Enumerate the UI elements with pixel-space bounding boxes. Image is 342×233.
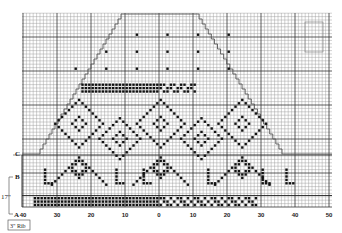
stitch-marks [34,34,295,207]
marker-b: B [15,174,20,181]
x-tick-label: 30 [258,212,265,218]
measure-17in: 17" [1,194,11,201]
x-tick-label: 30 [54,212,61,218]
x-tick-label: 20 [224,212,231,218]
x-tick-label: 40 [292,212,299,218]
x-tick-label: 40 [20,212,27,218]
measure-rib: 3" Rib [10,223,26,229]
knitting-chart [0,0,342,233]
x-tick-label: 10 [190,212,197,218]
x-tick-label: 50 [326,212,333,218]
x-tick-label: 0 [157,212,160,218]
x-tick-label: 10 [122,212,129,218]
garment-outline [22,14,332,154]
marker-c: C [15,151,20,158]
marker-a: A [14,212,19,219]
x-tick-label: 20 [88,212,95,218]
